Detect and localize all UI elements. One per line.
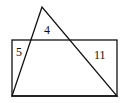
diagram-svg: 5 4 11 — [0, 0, 125, 103]
overlap-diagram: 5 4 11 — [0, 0, 125, 103]
label-region-11: 11 — [94, 48, 106, 62]
label-region-4: 4 — [44, 23, 50, 37]
label-region-5: 5 — [16, 45, 22, 59]
